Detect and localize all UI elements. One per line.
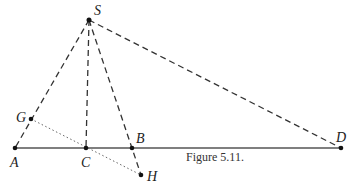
point-G [29,117,34,122]
point-C [84,146,89,151]
label-D: D [335,130,346,145]
label-G: G [16,110,26,125]
label-C: C [81,155,91,170]
point-D [339,146,344,151]
point-A [13,146,18,151]
line-SA [15,20,89,148]
label-A: A [9,155,19,170]
line-SH [89,20,141,175]
line-SC [86,20,89,148]
label-B: B [136,131,145,146]
point-S [87,18,92,23]
label-S: S [94,3,101,18]
label-H: H [146,169,158,184]
point-H [139,173,144,178]
point-B [130,146,135,151]
line-SD [89,20,341,148]
figure-diagram: S G A C B D H Figure 5.11. [0,0,352,191]
figure-caption: Figure 5.11. [186,150,244,164]
